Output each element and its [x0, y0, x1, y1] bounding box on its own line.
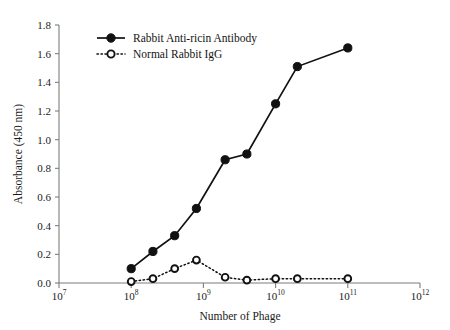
chart-figure: 0.00.20.40.60.81.01.21.41.61.8 107108109… [0, 0, 450, 330]
y-tick-label: 1.2 [37, 105, 51, 117]
series-line-0 [131, 48, 348, 269]
y-tick-label: 1.4 [37, 76, 51, 88]
data-point [128, 278, 135, 285]
data-point [344, 275, 351, 282]
data-point [149, 247, 157, 255]
y-tick-label: 1.6 [37, 48, 51, 60]
legend-label-1: Normal Rabbit IgG [133, 48, 222, 61]
series-line-1 [131, 260, 348, 282]
legend-marker-0 [107, 34, 115, 42]
data-point [272, 100, 280, 108]
data-series-layer [127, 44, 352, 285]
y-tick-label: 0.2 [37, 248, 51, 260]
data-point [150, 275, 157, 282]
y-tick-label: 1.8 [37, 19, 51, 31]
x-tick-label: 1011 [339, 288, 357, 302]
y-tick-label: 0.0 [37, 277, 51, 289]
y-axis-ticks [55, 25, 59, 283]
x-axis-title: Number of Phage [199, 310, 280, 323]
data-point [171, 232, 179, 240]
data-point [344, 44, 352, 52]
x-tick-label: 1010 [266, 288, 285, 302]
data-point [222, 274, 229, 281]
x-axis-tick-labels: 107108109101010111012 [52, 288, 430, 302]
axis-frame [59, 25, 420, 283]
data-point [171, 265, 178, 272]
data-point [127, 265, 135, 273]
x-axis-ticks [59, 283, 420, 288]
y-tick-label: 0.4 [37, 220, 51, 232]
y-tick-label: 0.8 [37, 162, 51, 174]
data-point [192, 204, 200, 212]
x-tick-label: 109 [196, 288, 211, 302]
chart-legend: Rabbit Anti-ricin AntibodyNormal Rabbit … [97, 32, 257, 61]
y-tick-label: 0.6 [37, 191, 51, 203]
data-point [221, 156, 229, 164]
legend-label-0: Rabbit Anti-ricin Antibody [133, 32, 257, 45]
data-point [272, 275, 279, 282]
data-point [243, 277, 250, 284]
x-tick-label: 1012 [411, 288, 430, 302]
x-tick-label: 107 [52, 288, 67, 302]
data-point [243, 150, 251, 158]
y-axis-tick-labels: 0.00.20.40.60.81.01.21.41.61.8 [37, 19, 51, 289]
absorbance-vs-phage-line-chart: 0.00.20.40.60.81.01.21.41.61.8 107108109… [0, 0, 450, 330]
data-point [294, 275, 301, 282]
x-tick-label: 108 [124, 288, 139, 302]
data-point [193, 257, 200, 264]
data-point [293, 62, 301, 70]
y-axis-title: Absorbance (450 nm) [12, 104, 25, 204]
legend-marker-1 [107, 50, 114, 57]
y-tick-label: 1.0 [37, 134, 51, 146]
